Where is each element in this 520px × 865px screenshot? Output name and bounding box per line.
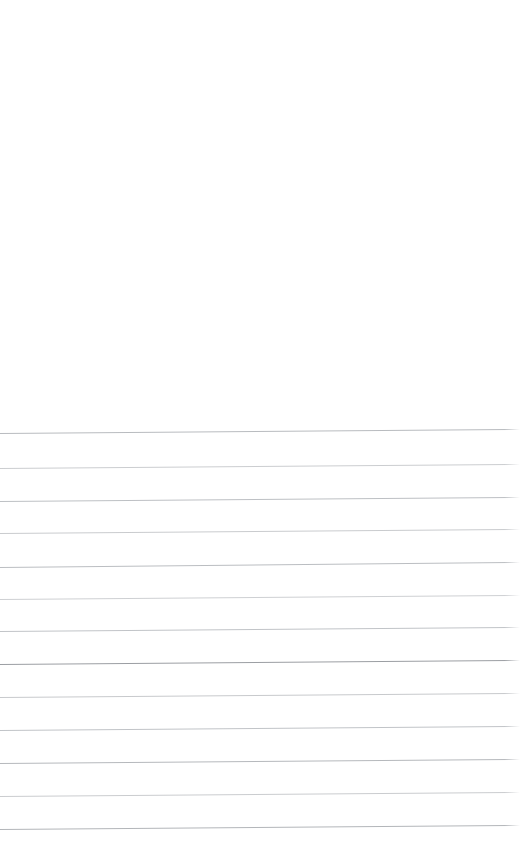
rule-line (0, 626, 520, 632)
rule-line (0, 594, 520, 600)
rule-stroke (0, 759, 520, 764)
rule-stroke (0, 825, 520, 830)
rule-stroke (0, 792, 520, 797)
rule-stroke (0, 726, 520, 731)
rule-stroke (0, 627, 520, 632)
ruled-lines-area (0, 0, 520, 865)
rule-line (0, 824, 520, 830)
rule-line (0, 791, 520, 797)
rule-stroke (0, 660, 520, 665)
paper-page (0, 0, 520, 865)
rule-stroke (0, 595, 520, 600)
rule-stroke (0, 464, 520, 469)
rule-line (0, 561, 520, 568)
rule-line (0, 692, 520, 698)
rule-line (0, 428, 520, 434)
bottom-margin-area (0, 831, 520, 865)
rule-stroke (0, 529, 520, 534)
rule-stroke (0, 693, 520, 698)
rule-line (0, 725, 520, 731)
rule-line (0, 496, 520, 502)
rule-stroke (0, 497, 520, 502)
rule-line (0, 463, 520, 469)
rule-stroke (0, 429, 520, 434)
rule-line (0, 758, 520, 764)
rule-line (0, 659, 520, 665)
rule-stroke (0, 562, 520, 568)
rule-line (0, 528, 520, 534)
